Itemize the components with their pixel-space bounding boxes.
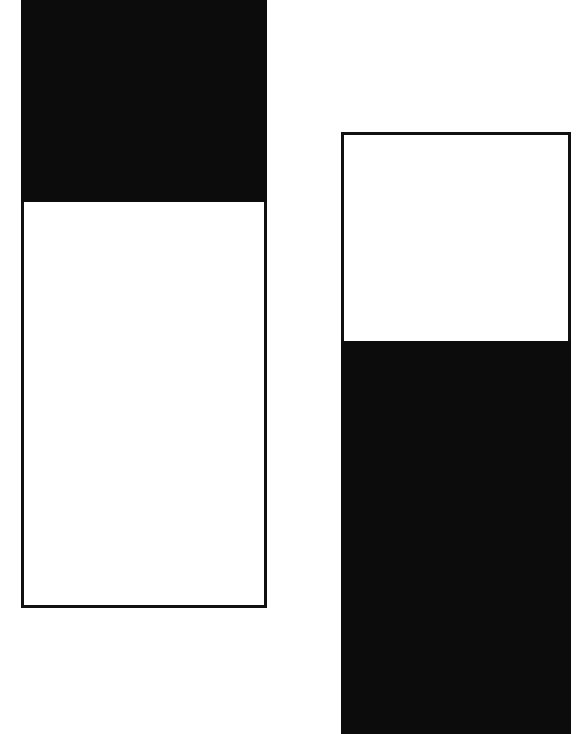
left-bar-white-section xyxy=(21,198,267,608)
drawing-canvas xyxy=(0,0,576,734)
right-bar-white-section xyxy=(341,132,571,346)
left-bar-black-section xyxy=(21,0,267,202)
right-bar-black-section xyxy=(341,341,571,734)
